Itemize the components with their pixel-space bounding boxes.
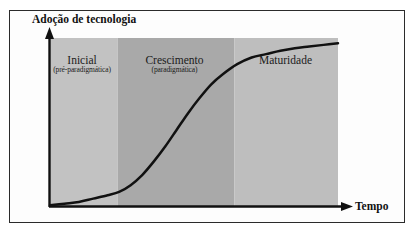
y-axis-label: Adoção de tecnologia — [32, 13, 136, 25]
x-axis-arrow-icon — [341, 202, 353, 211]
zone-subtitle-inicial: (pré-paradigmática) — [48, 66, 116, 74]
zone-label-crescimento: Crescimento (paradigmática) — [116, 54, 233, 75]
figure-canvas: Adoção de tecnologia Tempo Inicial (pré-… — [0, 0, 417, 234]
zone-subtitle-crescimento: (paradigmática) — [116, 66, 233, 74]
zone-label-maturidade: Maturidade — [233, 54, 338, 66]
zone-title-maturidade: Maturidade — [233, 54, 338, 66]
technology-adoption-chart — [0, 0, 417, 234]
zone-label-inicial: Inicial (pré-paradigmática) — [48, 54, 116, 75]
y-axis-arrow-icon — [45, 27, 54, 39]
x-axis-label: Tempo — [355, 200, 388, 212]
